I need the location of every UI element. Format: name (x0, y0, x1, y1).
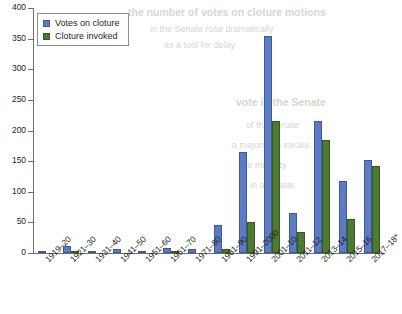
legend-label: Cloture invoked (55, 31, 118, 41)
bar-votes-on-cloture (264, 36, 272, 253)
bar-votes-on-cloture (88, 251, 96, 253)
y-tick-label: 50 (17, 216, 26, 226)
bar-group (259, 36, 284, 253)
y-tick-label: 100 (12, 186, 26, 196)
y-tick-label: 400 (12, 2, 26, 12)
bar-group (310, 121, 335, 253)
legend-label: Votes on cloture (55, 18, 120, 28)
y-tick-label: 250 (12, 94, 26, 104)
y-tick-label: 350 (12, 33, 26, 43)
chart-legend: Votes on cloture Cloture invoked (37, 13, 129, 46)
y-tick-mark (28, 253, 33, 254)
y-tick-label: 300 (12, 63, 26, 73)
legend-item-cloture-invoked: Cloture invoked (43, 31, 120, 41)
bar-votes-on-cloture (314, 121, 322, 253)
blue-square-swatch-icon (43, 20, 50, 27)
bar-votes-on-cloture (138, 251, 146, 253)
legend-item-votes-on-cloture: Votes on cloture (43, 18, 120, 28)
y-tick-label: 150 (12, 155, 26, 165)
y-tick-label: 200 (12, 125, 26, 135)
bar-votes-on-cloture (38, 251, 46, 253)
y-tick-label: 0 (21, 247, 26, 257)
green-square-swatch-icon (43, 33, 50, 40)
bar-votes-on-cloture (188, 249, 196, 253)
bar-cloture-invoked (322, 140, 330, 253)
